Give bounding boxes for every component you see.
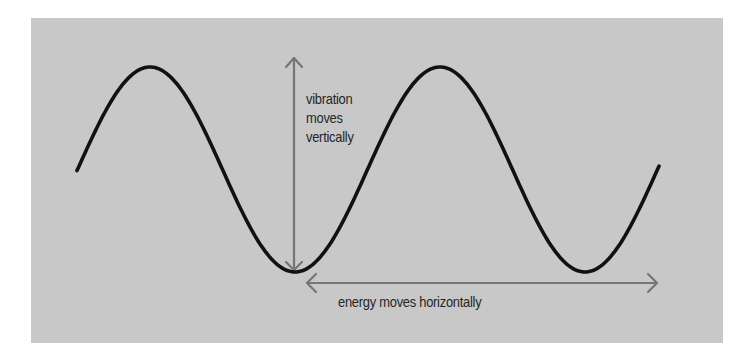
sine-wave — [77, 67, 659, 272]
vertical-label-line-3: vertically — [306, 127, 354, 146]
horizontal-label: energy moves horizontally — [338, 293, 481, 311]
horizontal-arrow — [307, 274, 657, 292]
vertical-label: vibration moves vertically — [306, 89, 354, 146]
vertical-label-line-2: moves — [306, 108, 354, 127]
vertical-arrow — [286, 58, 302, 270]
vertical-label-line-1: vibration — [306, 89, 354, 108]
